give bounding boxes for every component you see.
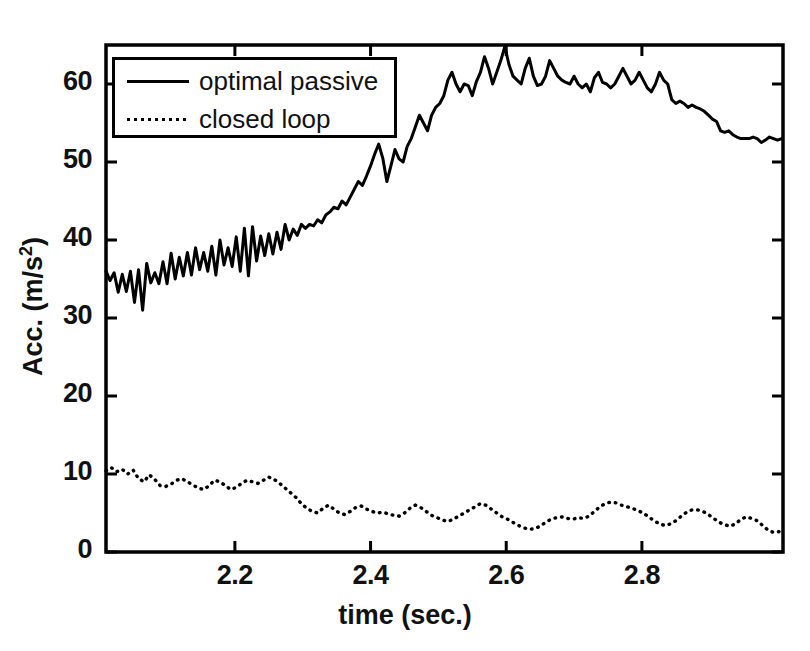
x-tick-label-2.4: 2.4 — [316, 560, 426, 591]
legend-dotted-line-icon — [127, 113, 189, 125]
y-axis-title-base: Acc. (m/s — [18, 256, 48, 376]
legend-item-optimal-passive: optimal passive — [115, 62, 394, 100]
legend-solid-line-icon — [127, 75, 189, 87]
y-axis-title-exponent: 2 — [16, 246, 36, 256]
x-tick-label-2.6: 2.6 — [451, 560, 561, 591]
x-tick-label-2.8: 2.8 — [587, 560, 697, 591]
acceleration-time-chart: 0102030405060 2.22.42.62.8 Acc. (m/s2) t… — [0, 0, 810, 651]
chart-legend: optimal passive closed loop — [112, 57, 397, 138]
legend-label-optimal-passive: optimal passive — [199, 66, 378, 97]
y-tick-label-60: 60 — [20, 66, 92, 97]
legend-item-closed-loop: closed loop — [115, 100, 394, 138]
y-axis-title: Acc. (m/s2) — [16, 157, 49, 457]
y-axis-ticks — [106, 84, 783, 552]
x-tick-label-2.2: 2.2 — [180, 560, 290, 591]
y-tick-label-0: 0 — [20, 534, 92, 565]
y-axis-title-close: ) — [18, 237, 48, 246]
legend-label-closed-loop: closed loop — [199, 104, 331, 135]
x-axis-title: time (sec.) — [0, 600, 810, 631]
y-tick-label-10: 10 — [20, 456, 92, 487]
series-closed-loop-line — [106, 468, 782, 533]
